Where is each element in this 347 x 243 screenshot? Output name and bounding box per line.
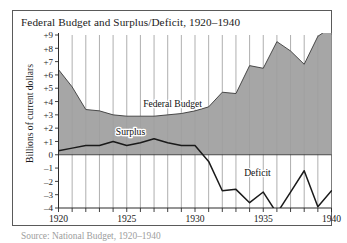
- y-tick-label: –1: [43, 163, 53, 173]
- y-tick-label: +7: [43, 57, 53, 67]
- y-tick-label: +1: [43, 137, 53, 147]
- y-axis-tick-labels: +9+8+7+6+5+4+3+2+10–1–2–3–4: [43, 30, 54, 213]
- y-tick-label: –3: [43, 190, 54, 200]
- x-tick-label: 1920: [49, 213, 68, 224]
- x-axis-tick-labels: 19201925193019351940: [49, 213, 341, 224]
- x-tick-label: 1935: [254, 213, 273, 224]
- surplus-label: Surplus: [116, 126, 146, 137]
- x-tick-label: 1940: [322, 213, 341, 224]
- y-tick-label: +4: [43, 97, 53, 107]
- y-tick-label: +3: [43, 110, 53, 120]
- chart-figure: Federal Budget and Surplus/Deficit, 1920…: [0, 0, 347, 243]
- y-tick-label: –4: [43, 203, 54, 213]
- x-tick-label: 1925: [117, 213, 136, 224]
- y-tick-label: +8: [43, 44, 53, 54]
- y-tick-label: –2: [43, 177, 53, 187]
- source-note: Source: National Budget, 1920–1940: [21, 231, 161, 241]
- x-tick-label: 1930: [185, 213, 204, 224]
- y-tick-label: +9: [43, 30, 53, 40]
- chart-plot-area: +9+8+7+6+5+4+3+2+10–1–2–3–4 192019251930…: [0, 0, 347, 243]
- y-tick-label: +6: [43, 70, 53, 80]
- deficit-label: Deficit: [244, 167, 271, 178]
- y-tick-label: 0: [49, 150, 54, 160]
- y-tick-label: +5: [43, 83, 53, 93]
- y-tick-label: +2: [43, 123, 53, 133]
- federal-budget-label: Federal Budget: [143, 98, 202, 109]
